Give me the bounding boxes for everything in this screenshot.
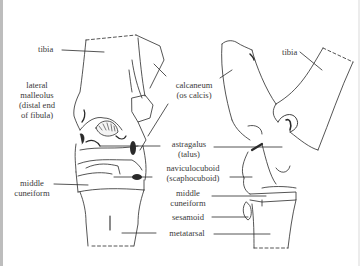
label-line: astragalus <box>162 139 216 149</box>
label-middle-cuneiform-side: middle cuneiform <box>166 188 210 208</box>
label-astragalus: astragalus (talus) <box>162 139 216 159</box>
label-line: cuneiform <box>166 198 210 208</box>
label-text: tibia <box>282 47 297 57</box>
label-line: (distal end <box>12 100 62 110</box>
diagram-page: tibia lateral malleolus (distal end of f… <box>0 0 360 266</box>
label-text: tibia <box>38 44 53 54</box>
label-text: sesamoid <box>172 212 204 222</box>
label-line: (os calcis) <box>164 90 224 100</box>
label-tibia-side: tibia <box>282 47 297 57</box>
label-line: middle <box>166 188 210 198</box>
label-line: malleolus <box>12 90 62 100</box>
label-line: (talus) <box>162 149 216 159</box>
label-line: lateral <box>12 80 62 90</box>
hock-bones-illustration <box>0 0 360 266</box>
label-line: calcaneum <box>164 80 224 90</box>
label-line: cuneiform <box>8 188 56 198</box>
label-line: (scaphocuboid) <box>158 173 228 183</box>
label-calcaneum: calcaneum (os calcis) <box>164 80 224 100</box>
label-text: metatarsal <box>169 228 204 238</box>
label-line: naviculocuboid <box>158 163 228 173</box>
label-tibia-front: tibia <box>38 44 53 54</box>
label-naviculocuboid: naviculocuboid (scaphocuboid) <box>158 163 228 183</box>
label-lateral-malleolus: lateral malleolus (distal end of fibula) <box>12 80 62 120</box>
label-middle-cuneiform-front: middle cuneiform <box>8 178 56 198</box>
front-view-drawing <box>74 35 164 246</box>
label-line: of fibula) <box>12 110 62 120</box>
label-sesamoid: sesamoid <box>166 212 210 222</box>
label-metatarsal: metatarsal <box>162 228 212 238</box>
label-line: middle <box>8 178 56 188</box>
